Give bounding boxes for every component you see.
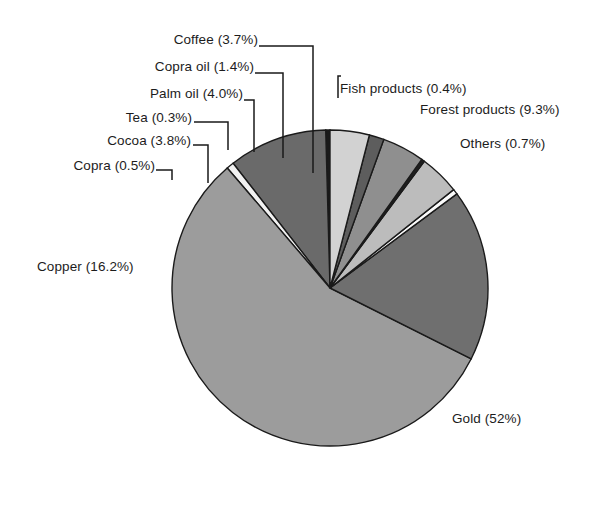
slice-label-copra: Copra (0.5%) <box>24 158 155 173</box>
pie-slice-group <box>172 130 488 446</box>
slice-label-gold: Gold (52%) <box>452 411 521 426</box>
slice-label-fish-products: Fish products (0.4%) <box>340 81 467 96</box>
slice-label-copra-oil: Copra oil (1.4%) <box>40 59 254 74</box>
pie-chart-svg <box>0 0 608 507</box>
leader-line-copra <box>156 170 172 180</box>
leader-line-cocoa <box>193 145 208 183</box>
leader-line-tea <box>194 122 228 150</box>
slice-label-coffee: Coffee (3.7%) <box>40 32 258 47</box>
slice-label-others: Others (0.7%) <box>460 136 545 151</box>
slice-label-palm-oil: Palm oil (4.0%) <box>40 86 243 101</box>
leader-line-palm-oil <box>244 100 254 152</box>
pie-chart-figure: Coffee (3.7%) Copra oil (1.4%) Palm oil … <box>0 0 608 507</box>
slice-label-tea: Tea (0.3%) <box>40 110 192 125</box>
slice-label-copper: Copper (16.2%) <box>37 259 134 274</box>
slice-label-cocoa: Cocoa (3.8%) <box>40 133 191 148</box>
slice-label-forest-products: Forest products (9.3%) <box>420 102 560 117</box>
